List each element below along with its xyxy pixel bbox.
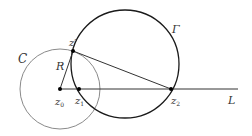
- label-z0: z0: [54, 96, 64, 108]
- label-r: R: [55, 60, 64, 73]
- geometry-diagram: C Γ L R z0 z1 z2 z′: [0, 0, 252, 136]
- point-zprime: [71, 49, 75, 53]
- point-z2: [169, 87, 173, 91]
- point-z1: [77, 87, 81, 91]
- label-z2: z2: [170, 95, 180, 107]
- segment-zprime-z2: [73, 51, 171, 89]
- label-l: L: [227, 94, 235, 107]
- label-c: C: [18, 52, 27, 66]
- point-z0: [58, 87, 62, 91]
- circle-gamma: [71, 10, 179, 118]
- label-zprime: z′: [68, 37, 77, 48]
- label-gamma: Γ: [171, 23, 180, 36]
